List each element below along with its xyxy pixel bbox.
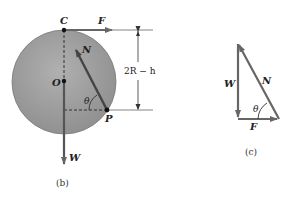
point-o [62, 79, 66, 83]
point-p [105, 108, 110, 113]
label-f: F [97, 15, 106, 26]
triangle-theta-arc [258, 103, 267, 119]
label-o: O [52, 77, 61, 88]
triangle-label-w: W [224, 78, 237, 89]
dimension-label: 2R − h [124, 66, 156, 76]
label-w: W [69, 152, 82, 163]
figure-b: C F N O θ P W 2R − h (b) [12, 15, 156, 188]
triangle-label-theta: θ [253, 104, 259, 114]
caption-c: (c) [245, 147, 257, 157]
label-n: N [81, 44, 92, 55]
diagram-canvas: C F N O θ P W 2R − h (b) W N θ F (c) [0, 0, 293, 197]
figure-c: W N θ F (c) [224, 44, 279, 157]
label-p: P [104, 113, 113, 124]
caption-b: (b) [56, 178, 69, 188]
label-c: C [60, 15, 68, 26]
triangle-label-n: N [261, 75, 272, 86]
triangle-n-vector [239, 45, 279, 119]
triangle-label-f: F [249, 121, 258, 132]
point-c [62, 28, 66, 32]
label-theta: θ [84, 96, 90, 106]
